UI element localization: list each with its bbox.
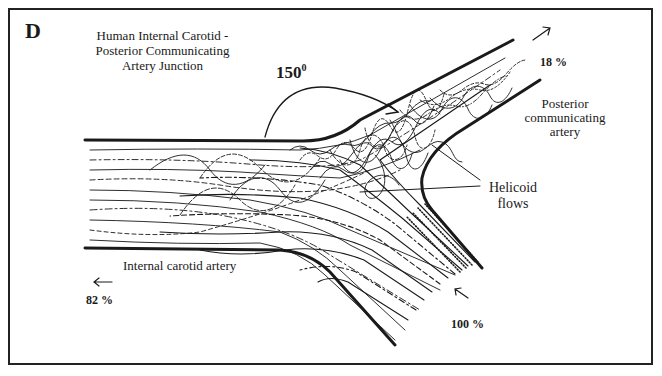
pcomm-label-line-1: Posterior — [510, 97, 620, 111]
pcomm-label-line-2: communicating — [510, 111, 620, 125]
helicoid-leader-1 — [432, 145, 480, 180]
figure-title: Human Internal Carotid - Posterior Commu… — [85, 28, 240, 73]
angle-degree: 0 — [302, 62, 307, 73]
pcomm-outflow-arrow — [533, 27, 550, 40]
helicoid-label-line-1: Helicoid — [478, 180, 548, 196]
inflow-percent: 100 % — [451, 317, 484, 331]
bifurcation-angle: 1500 — [276, 61, 307, 80]
ica-outflow-percent: 82 % — [86, 293, 113, 307]
helicoid-leader-2 — [360, 186, 480, 192]
helicoid-label-line-2: flows — [478, 196, 548, 212]
title-line-1: Human Internal Carotid - — [85, 28, 240, 43]
ica-outflow-arrow — [94, 278, 112, 286]
pcomm-label-line-3: artery — [510, 125, 620, 139]
title-line-3: Artery Junction — [85, 58, 240, 73]
panel-letter: D — [25, 24, 41, 38]
title-line-2: Posterior Communicating — [85, 43, 240, 58]
helicoid-flows-label: Helicoid flows — [478, 180, 548, 212]
pcomm-label: Posterior communicating artery — [510, 97, 620, 139]
ica-label: Internal carotid artery — [123, 259, 236, 273]
inflow-arrow — [455, 288, 468, 298]
pcomm-outflow-percent: 18 % — [540, 55, 567, 69]
angle-value: 150 — [276, 63, 302, 82]
